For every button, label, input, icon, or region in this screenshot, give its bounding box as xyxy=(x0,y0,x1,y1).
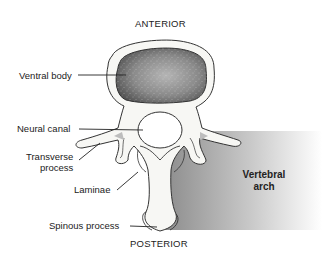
transverse-process-label-line2: process xyxy=(40,162,73,173)
neural-canal-label: Neural canal xyxy=(17,123,70,134)
spinous-process-label: Spinous process xyxy=(49,220,119,231)
vertebral-arch-label-line2: arch xyxy=(236,181,292,193)
posterior-label: POSTERIOR xyxy=(130,238,188,249)
laminae-label: Laminae xyxy=(74,184,110,195)
vertebral-arch-label: Vertebral arch xyxy=(236,169,292,193)
vertebral-arch-label-line1: Vertebral xyxy=(236,169,292,181)
laminae-leader xyxy=(117,172,138,190)
transverse-process-label-line1: Transverse xyxy=(26,151,73,162)
ventral-body-label: Ventral body xyxy=(19,70,72,81)
neural-canal-shape xyxy=(138,112,182,148)
anterior-label: ANTERIOR xyxy=(135,18,186,29)
